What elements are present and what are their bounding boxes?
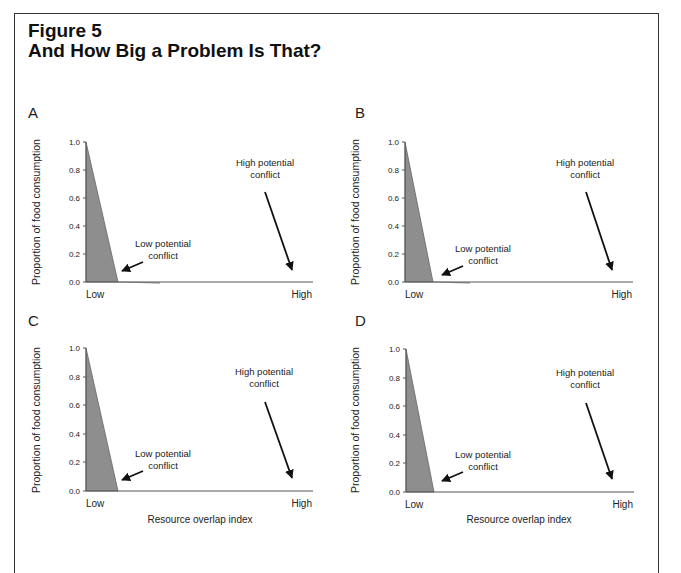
y-ticks: 1.0 0.8 0.6 0.4 0.2 0.0 bbox=[69, 344, 81, 496]
annotation-high-line2: conflict bbox=[249, 378, 279, 389]
y-tick: 0.0 bbox=[69, 278, 81, 287]
y-tick: 0.8 bbox=[389, 374, 401, 383]
y-tick: 1.0 bbox=[69, 344, 81, 353]
x-tick-high: High bbox=[612, 499, 633, 510]
panel-label: C bbox=[28, 312, 39, 329]
y-tick: 1.0 bbox=[389, 345, 401, 354]
x-tick-low: Low bbox=[405, 499, 424, 510]
annotation-high-line1: High potential bbox=[235, 366, 293, 377]
panel-c: C Proportion of food consumption 1.0 0.8… bbox=[28, 312, 313, 525]
y-tick: 0.8 bbox=[388, 166, 400, 175]
panel-a: A Proportion of food consumption 1.0 0.8… bbox=[28, 104, 313, 300]
annotation-low-line1: Low potential bbox=[455, 449, 511, 460]
annotation-high-line1: High potential bbox=[236, 157, 294, 168]
y-tick: 0.2 bbox=[388, 250, 400, 259]
panel-label: D bbox=[355, 312, 366, 329]
annotation-low-line1: Low potential bbox=[135, 238, 191, 249]
annotation-low-line1: Low potential bbox=[135, 448, 191, 459]
y-ticks: 1.0 0.8 0.6 0.4 0.2 0.0 bbox=[389, 345, 401, 497]
y-tick: 0.0 bbox=[389, 488, 401, 497]
arrow-high bbox=[265, 192, 292, 270]
annotation-low-line2: conflict bbox=[468, 461, 498, 472]
arrow-low bbox=[122, 471, 143, 480]
y-tick: 0.6 bbox=[69, 194, 81, 203]
arrow-high bbox=[265, 402, 292, 478]
y-tick: 0.2 bbox=[69, 458, 81, 467]
annotation-high-line2: conflict bbox=[570, 169, 600, 180]
annotation-high-line1: High potential bbox=[556, 367, 614, 378]
y-tick: 0.0 bbox=[388, 278, 400, 287]
arrow-high bbox=[586, 192, 612, 270]
y-tick: 0.4 bbox=[69, 430, 81, 439]
annotation-low-line2: conflict bbox=[148, 460, 178, 471]
x-tick-high: High bbox=[291, 498, 312, 509]
panel-label: B bbox=[355, 104, 365, 121]
panel-d: D Proportion of food consumption 1.0 0.8… bbox=[349, 312, 634, 525]
annotation-low-line1: Low potential bbox=[455, 243, 511, 254]
y-tick: 0.4 bbox=[69, 222, 81, 231]
annotation-high-line1: High potential bbox=[556, 157, 614, 168]
x-tick-high: High bbox=[611, 289, 632, 300]
y-ticks: 1.0 0.8 0.6 0.4 0.2 0.0 bbox=[69, 138, 81, 287]
y-axis-title: Proportion of food consumption bbox=[349, 139, 361, 285]
x-axis-title: Resource overlap index bbox=[466, 514, 571, 525]
x-tick-low: Low bbox=[86, 498, 105, 509]
y-tick: 1.0 bbox=[388, 138, 400, 147]
annotation-low-line2: conflict bbox=[468, 255, 498, 266]
y-axis-title: Proportion of food consumption bbox=[349, 347, 361, 493]
y-tick: 0.6 bbox=[388, 194, 400, 203]
y-tick: 0.4 bbox=[389, 431, 401, 440]
y-tick: 0.6 bbox=[389, 402, 401, 411]
x-tick-low: Low bbox=[86, 289, 105, 300]
arrow-low bbox=[442, 266, 463, 275]
annotation-low-line2: conflict bbox=[148, 250, 178, 261]
y-ticks: 1.0 0.8 0.6 0.4 0.2 0.0 bbox=[388, 138, 400, 287]
tail-line bbox=[433, 282, 470, 283]
consumption-area bbox=[406, 349, 434, 492]
annotation-high-line2: conflict bbox=[570, 379, 600, 390]
tail-line bbox=[118, 282, 160, 283]
annotation-high-line2: conflict bbox=[250, 169, 280, 180]
y-axis-title: Proportion of food consumption bbox=[30, 347, 42, 493]
consumption-area bbox=[86, 142, 118, 282]
arrow-high bbox=[586, 403, 612, 479]
y-tick: 0.8 bbox=[69, 166, 81, 175]
panel-b: B Proportion of food consumption 1.0 0.8… bbox=[349, 104, 633, 300]
y-axis-title: Proportion of food consumption bbox=[30, 139, 42, 285]
consumption-area bbox=[86, 348, 118, 491]
y-tick: 0.2 bbox=[69, 250, 81, 259]
y-tick: 0.4 bbox=[388, 222, 400, 231]
y-tick: 1.0 bbox=[69, 138, 81, 147]
arrow-low bbox=[122, 262, 143, 271]
arrow-low bbox=[442, 472, 463, 481]
y-tick: 0.0 bbox=[69, 487, 81, 496]
x-tick-low: Low bbox=[405, 289, 424, 300]
panel-label: A bbox=[28, 104, 38, 121]
y-tick: 0.2 bbox=[389, 459, 401, 468]
y-tick: 0.8 bbox=[69, 373, 81, 382]
x-axis-title: Resource overlap index bbox=[147, 514, 252, 525]
y-tick: 0.6 bbox=[69, 401, 81, 410]
x-tick-high: High bbox=[291, 289, 312, 300]
consumption-area bbox=[405, 142, 433, 282]
